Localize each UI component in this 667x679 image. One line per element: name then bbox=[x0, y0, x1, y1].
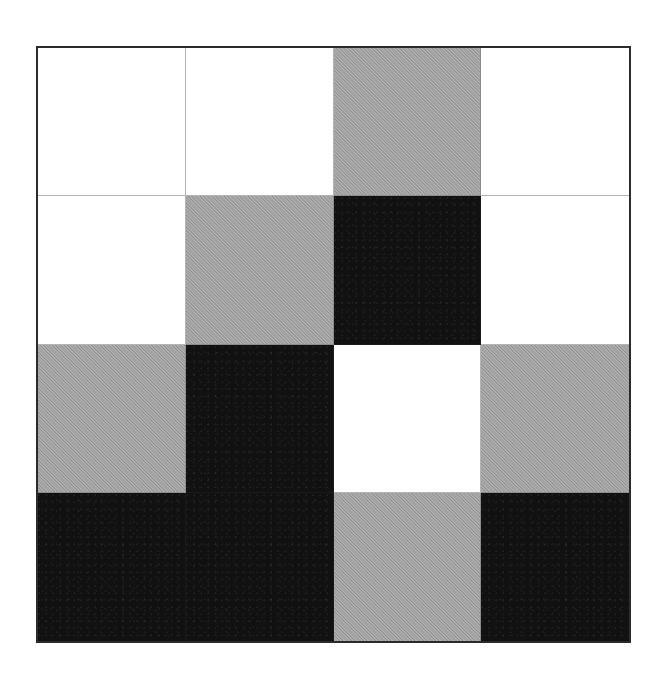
grid-cell-r4-c3 bbox=[334, 493, 482, 641]
grid-cell-r3-c4 bbox=[481, 345, 629, 493]
grid-cell-r3-c1 bbox=[38, 345, 186, 493]
grid-cell-r4-c2 bbox=[186, 493, 334, 641]
grid-cell-r3-c2 bbox=[186, 345, 334, 493]
grid-cell-r4-c1 bbox=[38, 493, 186, 641]
grid-cell-r1-c2 bbox=[186, 48, 334, 196]
grid-cell-r2-c1 bbox=[38, 196, 186, 344]
figure-canvas: { "figure": { "type": "grid-pattern", "r… bbox=[0, 0, 667, 679]
grid-cell-r2-c3 bbox=[334, 196, 482, 344]
grid-cell-r2-c2 bbox=[186, 196, 334, 344]
grid-cell-r2-c4 bbox=[481, 196, 629, 344]
grid-cell-r3-c3 bbox=[334, 345, 482, 493]
grid-cell-r1-c1 bbox=[38, 48, 186, 196]
grid-cell-r4-c4 bbox=[481, 493, 629, 641]
grid-cell-r1-c3 bbox=[334, 48, 482, 196]
grid-cell-r1-c4 bbox=[481, 48, 629, 196]
pattern-grid bbox=[36, 46, 631, 643]
